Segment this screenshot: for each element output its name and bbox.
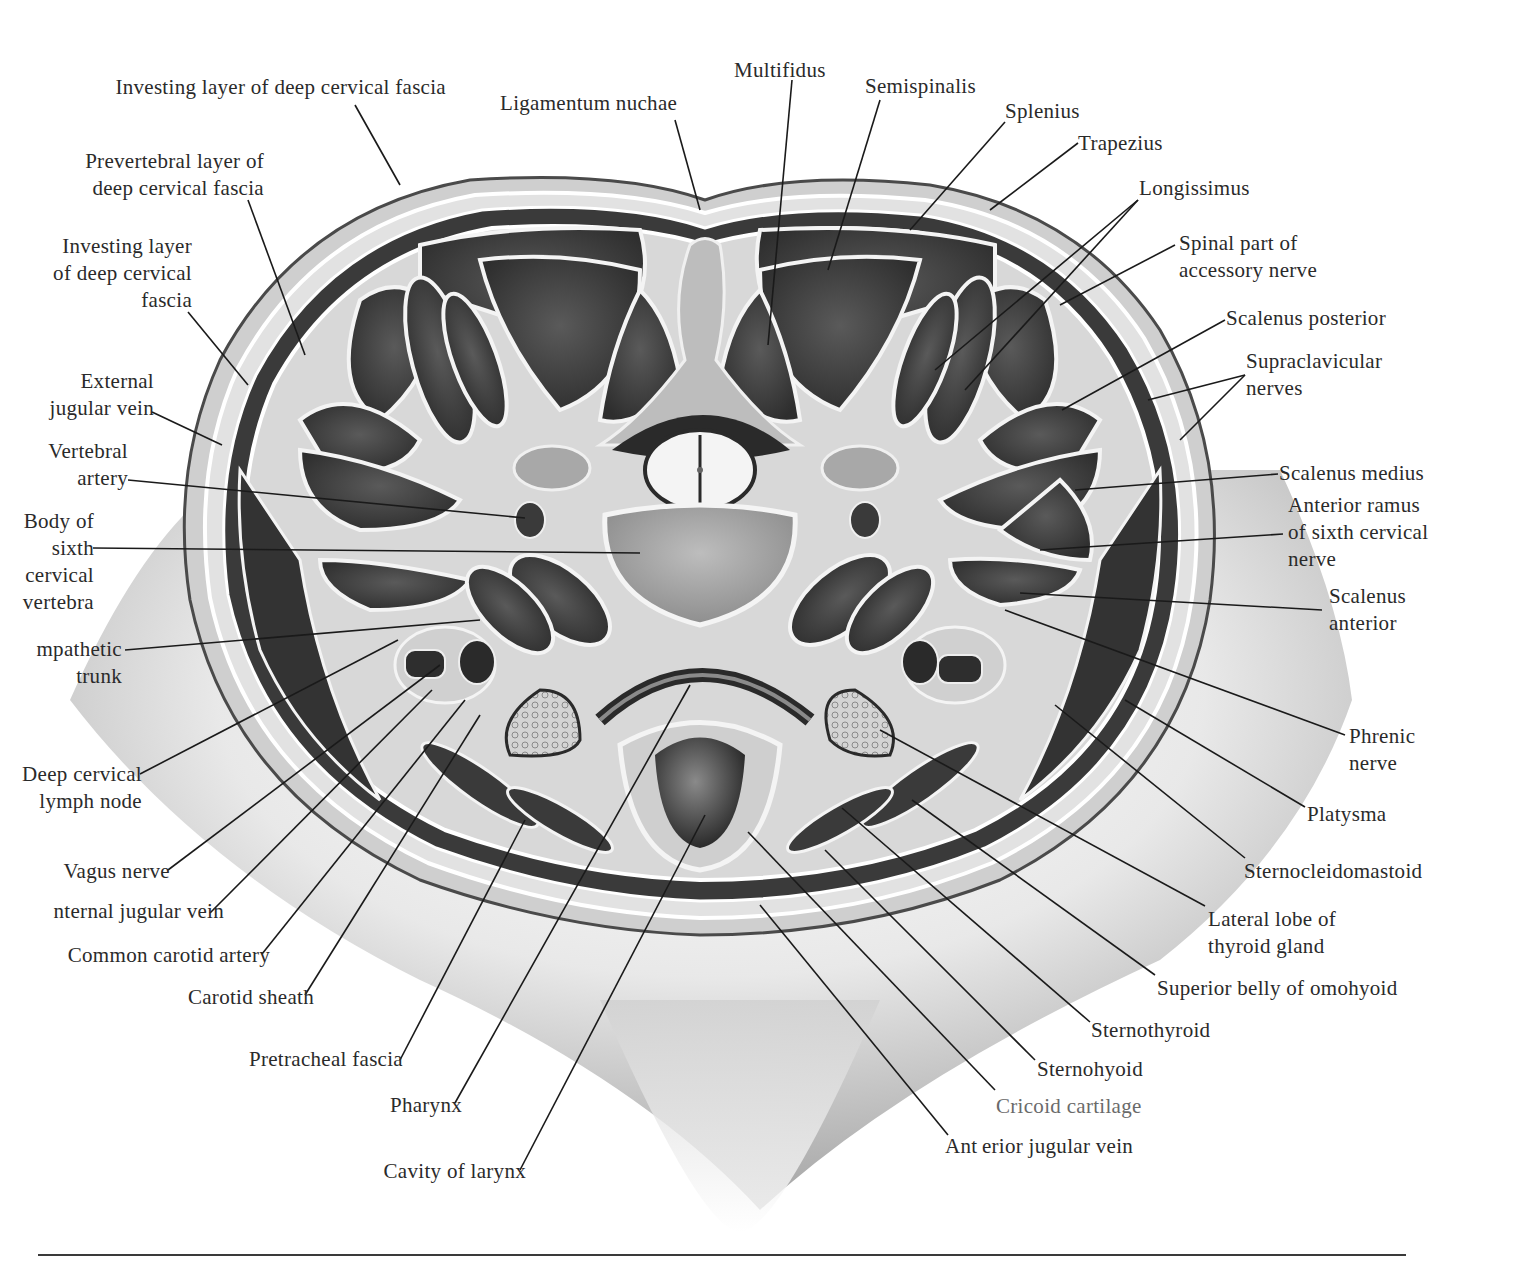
label-sympathetic-trunk: mpathetic trunk [0,636,122,690]
label-carotid-sheath: Carotid sheath [0,984,314,1011]
label-line: Spinal part of [1179,230,1317,257]
label-line: nerve [1288,546,1428,573]
label-vagus-nerve: Vagus nerve [0,858,170,885]
label-internal-jugular-vein: nternal jugular vein [0,898,224,925]
label-line: fascia [0,287,192,314]
label-phrenic-nerve: Phrenic nerve [1349,723,1415,777]
label-body-of-sixth-cervical-vertebra: Body of sixth cervical vertebra [0,508,94,616]
label-line: accessory nerve [1179,257,1317,284]
label-line: Vertebral [0,438,128,465]
label-cavity-of-larynx: Cavity of larynx [0,1158,526,1185]
label-line: mpathetic [0,636,122,663]
label-splenius: Splenius [1005,98,1080,125]
label-line: sixth [0,535,94,562]
label-sternocleidomastoid: Sternocleidomastoid [1244,858,1422,885]
carotid-sheath-right [902,627,1005,703]
label-lateral-lobe-of-thyroid-gland: Lateral lobe of thyroid gland [1208,906,1336,960]
label-superior-belly-of-omohyoid: Superior belly of omohyoid [1157,975,1398,1002]
label-common-carotid-artery: Common carotid artery [0,942,270,969]
label-line: lymph node [0,788,142,815]
spinal-cord [645,430,755,510]
label-external-jugular-vein: External jugular vein [0,368,154,422]
label-sternothyroid: Sternothyroid [1091,1017,1210,1044]
label-ligamentum-nuchae: Ligamentum nuchae [500,90,677,117]
label-line: Body of [0,508,94,535]
label-line: thyroid gland [1208,933,1336,960]
label-line: anterior [1329,610,1406,637]
label-line: Phrenic [1349,723,1415,750]
label-line: Supraclavicular [1246,348,1382,375]
label-sternohyoid: Sternohyoid [1037,1056,1143,1083]
label-supraclavicular-nerves: Supraclavicular nerves [1246,348,1382,402]
label-line: Anterior ramus [1288,492,1428,519]
label-spinal-part-of-accessory-nerve: Spinal part of accessory nerve [1179,230,1317,284]
neck-cross-section-figure: Investing layer of deep cervical fascia … [0,0,1515,1264]
label-line: trunk [0,663,122,690]
label-line: Lateral lobe of [1208,906,1336,933]
label-investing-layer-side: Investing layer of deep cervical fascia [0,233,192,314]
label-line: nerves [1246,375,1382,402]
carotid-sheath-left [395,627,495,703]
label-deep-cervical-lymph-node: Deep cervical lymph node [0,761,142,815]
label-scalenus-posterior: Scalenus posterior [1226,305,1386,332]
label-multifidus: Multifidus [734,57,826,84]
label-prevertebral-layer: Prevertebral layer of deep cervical fasc… [20,148,264,202]
label-line: nerve [1349,750,1415,777]
label-line: vertebra [0,589,94,616]
label-anterior-jugular-vein: Ant erior jugular vein [945,1133,1133,1160]
label-line: artery [0,465,128,492]
label-line: External [0,368,154,395]
label-investing-layer-top: Investing layer of deep cervical fascia [28,74,446,101]
label-vertebral-artery: Vertebral artery [0,438,128,492]
label-line: Scalenus [1329,583,1406,610]
label-longissimus: Longissimus [1139,175,1250,202]
label-line: deep cervical fascia [20,175,264,202]
label-line: of deep cervical [0,260,192,287]
bottom-rule-divider [38,1254,1406,1256]
label-line: Investing layer [0,233,192,260]
label-line: Prevertebral layer of [20,148,264,175]
label-scalenus-medius: Scalenus medius [1279,460,1424,487]
label-semispinalis: Semispinalis [865,73,976,100]
label-scalenus-anterior: Scalenus anterior [1329,583,1406,637]
label-cricoid-cartilage: Cricoid cartilage [996,1093,1142,1120]
label-line: jugular vein [0,395,154,422]
label-platysma: Platysma [1307,801,1386,828]
label-pretracheal-fascia: Pretracheal fascia [0,1046,403,1073]
label-line: of sixth cervical [1288,519,1428,546]
label-line: Deep cervical [0,761,142,788]
label-anterior-ramus-sixth-cervical-nerve: Anterior ramus of sixth cervical nerve [1288,492,1428,573]
label-pharynx: Pharynx [0,1092,462,1119]
label-line: cervical [0,562,94,589]
label-trapezius: Trapezius [1078,130,1163,157]
